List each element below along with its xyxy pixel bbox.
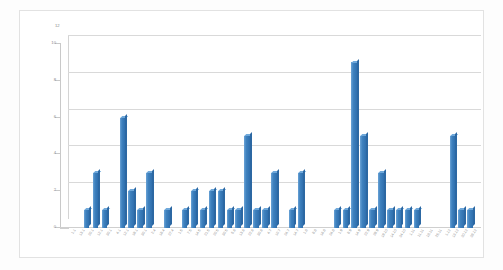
bar[interactable]	[128, 191, 134, 228]
bar-side-face	[357, 58, 359, 226]
x-tick-label: 22.9	[365, 229, 372, 237]
x-tick-label: 14.5	[195, 229, 202, 237]
x-tick-label: 18.11	[426, 229, 434, 238]
x-tick-label: 13.1	[79, 229, 86, 237]
x-tick-label: 7.5	[187, 229, 193, 235]
bar[interactable]	[253, 210, 259, 228]
bar-side-face	[143, 206, 145, 227]
x-tick-label: 13.6	[240, 229, 247, 237]
x-tick-label: 28.12	[471, 229, 479, 239]
x-tick-label: 20.5	[213, 229, 220, 237]
bar-side-face	[107, 206, 109, 227]
x-tick-label: 1.9	[339, 229, 345, 235]
x-tick-label: 1.5	[178, 229, 184, 235]
bar-side-face	[268, 206, 270, 227]
bar[interactable]	[378, 173, 384, 228]
bar-side-face	[170, 206, 172, 227]
bar[interactable]	[458, 210, 464, 228]
bar-side-face	[152, 169, 154, 226]
bar-side-face	[125, 114, 127, 227]
bar-side-face	[375, 206, 377, 227]
x-tick-label: 30.1	[106, 229, 113, 237]
bar-side-face	[89, 206, 91, 227]
x-tick-label: 19.1	[133, 229, 140, 237]
bar-side-face	[259, 206, 261, 227]
bar[interactable]	[182, 210, 188, 228]
bar[interactable]	[120, 118, 126, 228]
x-tick-label: 13.12	[453, 229, 461, 239]
x-tick-label: 19.10	[381, 229, 389, 239]
chart-page: 12 0246810 1.113.120.112.130.14.112.119.…	[0, 0, 503, 270]
bar-side-face	[134, 187, 136, 226]
bar-side-face	[303, 169, 305, 226]
bar-side-face	[473, 206, 475, 227]
x-tick-label: 24.10	[399, 229, 407, 239]
bar[interactable]	[262, 210, 268, 228]
bar[interactable]	[93, 173, 99, 228]
x-axis-labels: 1.113.120.112.130.14.112.119.130.12.418.…	[60, 229, 490, 269]
x-tick-label: 10.7	[275, 229, 282, 237]
x-tick-label: 22.6	[249, 229, 256, 237]
bar-side-face	[241, 206, 243, 227]
bar-side-face	[196, 187, 198, 226]
bar[interactable]	[343, 210, 349, 228]
x-tick-label: 5.6	[232, 229, 238, 235]
bar-side-face	[232, 206, 234, 227]
y-tick-label: 8	[54, 78, 56, 82]
bar-side-face	[455, 132, 457, 226]
bar[interactable]	[146, 173, 152, 228]
bar[interactable]	[387, 210, 393, 228]
bar-side-face	[98, 169, 100, 226]
bar-side-face	[348, 206, 350, 227]
bar[interactable]	[209, 191, 215, 228]
bar[interactable]	[164, 210, 170, 228]
bar[interactable]	[351, 62, 357, 228]
bar-side-face	[214, 187, 216, 226]
x-tick-label: 2.4	[152, 229, 158, 235]
bar[interactable]	[405, 210, 411, 228]
bar[interactable]	[84, 210, 90, 228]
bar-side-face	[410, 206, 412, 227]
x-tick-label: 12.1	[97, 229, 104, 237]
x-tick-label: 14.10	[390, 229, 398, 239]
x-tick-label: 20.1	[88, 229, 95, 237]
x-tick-label: 1.11	[409, 229, 416, 237]
bar[interactable]	[450, 136, 456, 228]
x-tick-label: 25.11	[435, 229, 443, 238]
x-tick-label: 16.8	[320, 229, 327, 237]
bar-side-face	[384, 169, 386, 226]
x-tick-label: 18.4	[159, 229, 166, 237]
plot-area: 0246810	[60, 35, 481, 227]
bar[interactable]	[298, 173, 304, 228]
bar[interactable]	[369, 210, 375, 228]
bar[interactable]	[414, 210, 420, 228]
bar[interactable]	[396, 210, 402, 228]
bar-side-face	[393, 206, 395, 227]
bar-side-face	[401, 206, 403, 227]
bar-side-face	[294, 206, 296, 227]
x-tick-label: 4.1	[116, 229, 122, 235]
bar[interactable]	[334, 210, 340, 228]
bar[interactable]	[191, 191, 197, 228]
x-tick-label: 8.8	[312, 229, 318, 235]
bar[interactable]	[289, 210, 295, 228]
x-tick-label: 27.4	[168, 229, 175, 237]
x-tick-label: 20.12	[462, 229, 470, 239]
bar[interactable]	[200, 210, 206, 228]
bar[interactable]	[102, 210, 108, 228]
x-tick-label: 24.7	[284, 229, 291, 237]
x-tick-label: 14.9	[356, 229, 363, 237]
bar[interactable]	[360, 136, 366, 228]
bar[interactable]	[235, 210, 241, 228]
bar-side-face	[205, 206, 207, 227]
x-tick-label: 1.1	[71, 229, 77, 235]
bar[interactable]	[467, 210, 473, 228]
bar-series	[60, 35, 481, 228]
bar[interactable]	[218, 191, 224, 228]
y-tick-label: 10	[51, 41, 56, 45]
bar-side-face	[223, 187, 225, 226]
bar[interactable]	[271, 173, 277, 228]
bar[interactable]	[227, 210, 233, 228]
bar[interactable]	[244, 136, 250, 228]
bar[interactable]	[137, 210, 143, 228]
